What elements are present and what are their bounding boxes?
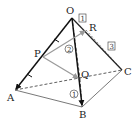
vector-PQ bbox=[43, 57, 78, 78]
vector-OA bbox=[16, 18, 72, 89]
edge-AC-dashed bbox=[15, 70, 122, 90]
edge-RC-dashed bbox=[86, 30, 122, 70]
label-Q: Q bbox=[81, 69, 89, 80]
label-P: P bbox=[34, 48, 41, 59]
vector-PR bbox=[43, 31, 85, 57]
label-O: O bbox=[66, 5, 74, 16]
tick-mark bbox=[27, 74, 32, 77]
ratio-box-3-text: 3 bbox=[110, 43, 114, 51]
label-R: R bbox=[89, 22, 97, 33]
label-A: A bbox=[6, 92, 15, 103]
label-C: C bbox=[124, 66, 132, 77]
label-B: B bbox=[79, 109, 86, 120]
circled-2-text: 2 bbox=[67, 46, 71, 54]
pyramid-diagram: O A B C P Q R 1 3 2 1 bbox=[0, 0, 137, 125]
circled-1-text: 1 bbox=[72, 91, 76, 99]
ratio-box-1-text: 1 bbox=[81, 15, 85, 23]
